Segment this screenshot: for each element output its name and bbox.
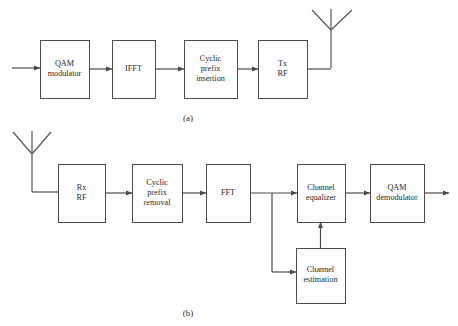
block-qam-modulator[interactable]: QAMmodulator	[41, 41, 90, 99]
block-qam-demodulator[interactable]: QAMdemodulator	[371, 165, 425, 223]
block-rx-rf[interactable]: RxRF	[59, 165, 106, 223]
block-label-cyclic-prefix-removal: prefix	[147, 188, 167, 197]
block-label-qam-demodulator: demodulator	[376, 193, 418, 202]
block-label-channel-estimation: estimation	[303, 275, 337, 284]
block-label-qam-modulator: modulator	[48, 69, 82, 78]
block-ifft[interactable]: IFFT	[113, 41, 156, 99]
block-label-tx-rf: Tx	[278, 59, 287, 68]
block-label-cyclic-prefix-insertion: insertion	[196, 74, 225, 83]
block-label-cyclic-prefix-removal: Cyclic	[146, 178, 168, 187]
block-label-ifft: IFFT	[125, 64, 142, 73]
rx-antenna	[13, 131, 51, 192]
tx-antenna-left-arm	[312, 10, 331, 30]
block-channel-equalizer[interactable]: Channelequalizer	[298, 165, 346, 223]
block-tx-rf[interactable]: TxRF	[259, 41, 308, 99]
rx-antenna-right-arm	[32, 132, 51, 154]
block-label-tx-rf: RF	[277, 69, 287, 78]
block-cyclic-prefix-insertion[interactable]: Cyclicprefixinsertion	[185, 41, 238, 99]
caption-a: (a)	[183, 113, 193, 123]
block-cyclic-prefix-removal[interactable]: Cyclicprefixremoval	[133, 165, 183, 223]
block-channel-estimation[interactable]: Channelestimation	[297, 249, 346, 304]
block-label-rx-rf: Rx	[77, 183, 87, 192]
caption-b: (b)	[183, 308, 194, 318]
block-label-rx-rf: RF	[76, 193, 86, 202]
block-label-channel-estimation: Channel	[307, 265, 335, 274]
block-label-cyclic-prefix-removal: removal	[144, 198, 172, 207]
block-label-qam-demodulator: QAM	[387, 183, 407, 192]
block-fft[interactable]: FFT	[207, 165, 251, 223]
tx-antenna	[312, 9, 352, 68]
block-label-channel-equalizer: Channel	[307, 183, 335, 192]
block-label-fft: FFT	[221, 188, 235, 197]
captions-layer: (a)(b)	[183, 113, 194, 318]
rx-antenna-left-arm	[13, 132, 32, 154]
figure-canvas: QAMmodulatorIFFTCyclicprefixinsertionTxR…	[0, 0, 458, 326]
blocks-layer: QAMmodulatorIFFTCyclicprefixinsertionTxR…	[41, 41, 425, 304]
block-label-cyclic-prefix-insertion: Cyclic	[200, 54, 222, 63]
block-label-qam-modulator: QAM	[55, 59, 75, 68]
block-diagram-svg: QAMmodulatorIFFTCyclicprefixinsertionTxR…	[0, 0, 458, 326]
tx-antenna-right-arm	[331, 10, 352, 30]
block-label-cyclic-prefix-insertion: prefix	[201, 64, 221, 73]
block-label-channel-equalizer: equalizer	[306, 193, 336, 202]
